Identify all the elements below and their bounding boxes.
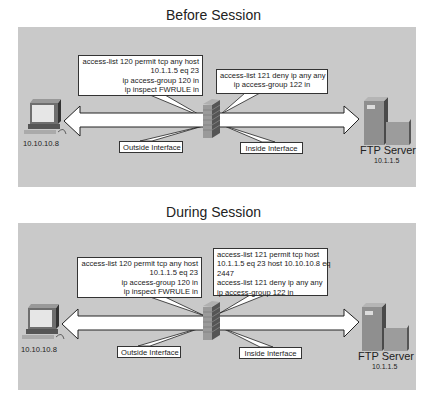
acl-line: ip inspect FWRULE in [81,287,198,296]
outside-acl-callout-during: access-list 120 permit tcp any host10.1.… [77,257,202,298]
server-ip-during: 10.1.1.5 [372,363,397,370]
client-ip-during: 10.10.10.8 [21,345,57,354]
diagram-graphics-during [0,0,427,403]
server-name-during: FTP Server [358,350,414,362]
acl-line: ip access-group 122 in [217,288,324,297]
acl-line: access-list 120 permit tcp any host [81,259,198,268]
acl-line: ip access-group 120 in [81,278,198,287]
outside-interface-label-during: Outside Interface [117,346,181,358]
firewall-icon [203,301,220,340]
pc-icon [22,304,64,339]
acl-line: access-list 121 permit tcp host [217,250,324,259]
acl-line: 10.1.1.5 eq 23 [81,268,198,277]
inside-acl-callout-during: access-list 121 permit tcp host10.1.1.5 … [213,248,328,296]
acl-line: 2447 [217,269,324,278]
acl-line: access-list 121 deny ip any any [217,278,324,287]
inside-interface-label-during: Inside Interface [239,347,302,359]
server-icon [362,303,409,351]
acl-line: 10.1.1.5 eq 23 host 10.10.10.8 eq [217,259,324,268]
